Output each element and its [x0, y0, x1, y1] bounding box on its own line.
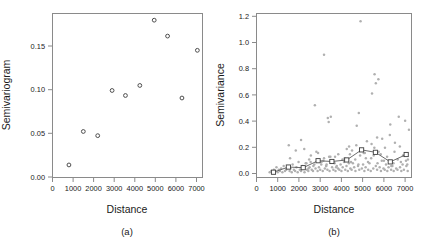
- panel-b-cloud-point: [376, 162, 379, 165]
- panel-b-cloud-point: [334, 170, 337, 173]
- panel-b-y-ticks: 0.0 0.2 0.4 0.6 0.8 1.0 1.2: [239, 12, 257, 178]
- panel-b-cloud-point: [317, 152, 320, 155]
- panel-b-cloud-point: [354, 158, 357, 161]
- panel-b-xtick-2: 2000: [291, 184, 307, 193]
- panel-b-cloud-point: [369, 170, 372, 173]
- panel-b-cloud-point: [386, 170, 389, 173]
- panel-b-cloud-point: [344, 169, 347, 172]
- panel-b-cloud-point: [386, 156, 389, 159]
- panel-b-cloud-point: [303, 171, 306, 174]
- panel-b-cloud-point: [331, 166, 334, 169]
- panel-b-cloud-point: [377, 78, 380, 81]
- panel-b-cloud-point: [323, 54, 326, 57]
- panel-b-cloud-point: [349, 153, 352, 156]
- panel-b-y-axis-label: Semivariance: [214, 63, 226, 127]
- panel-b-cloud-point: [392, 170, 395, 173]
- panel-b-cloud-point: [345, 148, 348, 151]
- panel-a: 0.00 0.05 0.10 0.15 0 1000 2000 3000 400…: [0, 0, 214, 243]
- panel-b-cloud-point: [330, 116, 333, 119]
- panel-b-cloud-point: [358, 112, 361, 115]
- panel-a-y-ticks: 0.00 0.05 0.10 0.15: [31, 42, 53, 182]
- panel-a-xtick-4: 4000: [127, 184, 143, 193]
- panel-b-cloud-point: [375, 165, 378, 168]
- panel-b-cloud-point: [390, 165, 393, 168]
- panel-a-xtick-3: 3000: [106, 184, 122, 193]
- panel-b-cloud-point: [373, 73, 376, 76]
- panel-b-cloud-point: [363, 170, 366, 173]
- panel-b-cloud-point: [319, 169, 322, 172]
- panel-b-cloud-point: [383, 159, 386, 162]
- panel-b-cloud-point: [398, 116, 401, 119]
- panel-b-cloud-point: [394, 141, 397, 144]
- panel-b-cloud-point: [332, 169, 335, 172]
- panel-a-y-axis-label: Semivariogram: [0, 59, 12, 130]
- panel-b-cloud-point: [384, 169, 387, 172]
- panel-b-cloud-point: [362, 163, 365, 166]
- panel-b-bin-marker: [330, 159, 334, 163]
- panel-a-point: [110, 89, 114, 93]
- panel-b-plot-frame: [257, 14, 412, 178]
- panel-b-cloud-point: [281, 171, 284, 174]
- panel-b-cloud-point: [365, 157, 368, 160]
- panel-b-cloud-point: [338, 169, 341, 172]
- panel-b-plot: 0.0 0.2 0.4 0.6 0.8 1.0 1.2 0 1000 2000: [214, 0, 428, 243]
- panel-b-cloud-point: [323, 157, 326, 160]
- panel-b-cloud-point: [387, 166, 390, 169]
- panel-b-bin-marker: [316, 159, 320, 163]
- panel-b-cloud-point: [275, 166, 278, 169]
- panel-b-cloud-point: [314, 104, 317, 107]
- panel-b-cloud-point: [390, 169, 393, 172]
- panel-b-cloud-point: [373, 147, 376, 150]
- panel-b-bin-marker: [345, 158, 349, 162]
- panel-b-cloud-point: [396, 169, 399, 172]
- panel-a-point: [152, 18, 156, 22]
- panel-a-point: [180, 96, 184, 100]
- panel-b-cloud-point: [345, 165, 348, 168]
- panel-b-cloud-point: [325, 165, 328, 168]
- panel-a-xtick-2: 2000: [85, 184, 101, 193]
- panel-b-ytick-2: 0.4: [239, 117, 249, 126]
- panel-a-caption: (a): [121, 226, 133, 237]
- panel-b-cloud-point: [370, 143, 373, 146]
- panel-b-cloud-point: [347, 170, 350, 173]
- panel-a-point: [67, 163, 71, 167]
- panel-b-cloud-point: [337, 153, 340, 156]
- semivariogram-figure: 0.00 0.05 0.10 0.15 0 1000 2000 3000 400…: [0, 0, 428, 243]
- panel-b-cloud-point: [335, 166, 338, 169]
- panel-b-xtick-6: 6000: [376, 184, 392, 193]
- panel-b-cloud-point: [309, 161, 312, 164]
- panel-b-cloud-point: [316, 170, 319, 173]
- panel-b-cloud-points: [268, 20, 410, 174]
- panel-b-cloud-point: [405, 159, 408, 162]
- panel-b-cloud-point: [341, 166, 344, 169]
- panel-b-cloud-point: [359, 20, 362, 23]
- panel-b-cloud-point: [378, 166, 381, 169]
- panel-b-cloud-point: [389, 134, 392, 137]
- panel-b-cloud-point: [351, 149, 354, 152]
- panel-b-cloud-point: [406, 170, 409, 173]
- panel-b-cloud-point: [328, 170, 331, 173]
- panel-b-cloud-point: [310, 154, 313, 157]
- panel-b-cloud-point: [385, 163, 388, 166]
- panel-b-bin-marker: [388, 160, 392, 164]
- panel-b-cloud-point: [370, 157, 373, 160]
- panel-a-data-points: [67, 18, 199, 167]
- panel-b-cloud-point: [353, 166, 356, 169]
- panel-b-cloud-point: [303, 148, 306, 151]
- panel-b-cloud-point: [300, 139, 303, 142]
- panel-a-xtick-1: 1000: [65, 184, 81, 193]
- panel-b-cloud-point: [401, 163, 404, 166]
- panel-b-cloud-point: [381, 138, 384, 141]
- panel-b-cloud-point: [327, 117, 330, 120]
- panel-b-cloud-point: [326, 169, 329, 172]
- panel-a-xtick-5: 5000: [147, 184, 163, 193]
- panel-b-xtick-4: 4000: [333, 184, 349, 193]
- panel-b-ytick-4: 0.8: [239, 64, 249, 73]
- panel-b-cloud-point: [355, 144, 358, 147]
- panel-b-cloud-point: [372, 167, 375, 170]
- panel-a-point: [81, 130, 85, 134]
- panel-b-cloud-point: [350, 161, 353, 164]
- panel-b-cloud-point: [357, 163, 360, 166]
- panel-b-xtick-1: 1000: [269, 184, 285, 193]
- panel-b-cloud-point: [376, 169, 379, 172]
